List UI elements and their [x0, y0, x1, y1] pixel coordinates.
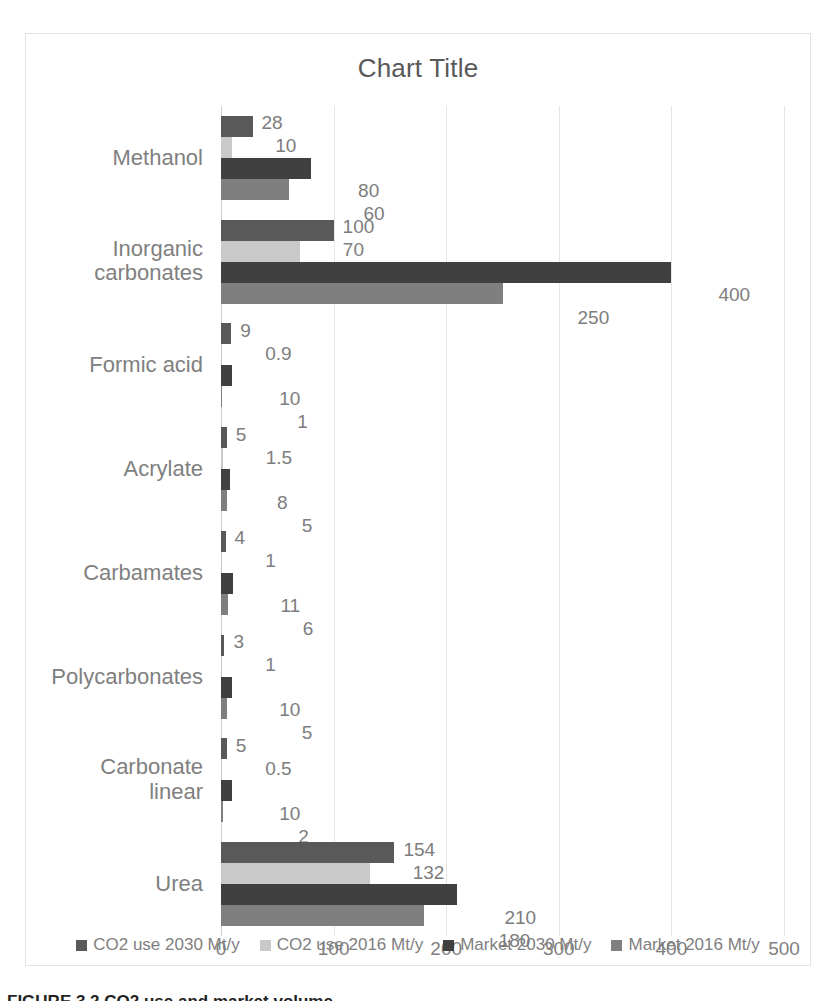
bar-value-label: 5 [227, 424, 247, 446]
bar-value-label: 9 [231, 320, 251, 342]
legend-label: CO2 use 2030 Mt/y [93, 935, 239, 955]
category-label: Carbonate linear [0, 756, 203, 805]
bar-row: 100 [221, 220, 784, 241]
bar[interactable] [221, 490, 227, 511]
bar[interactable] [221, 116, 253, 137]
figure-caption: FIGURE 3.2 CO2 use and market volume. [7, 992, 338, 1001]
bar[interactable] [221, 323, 231, 344]
category-label: Polycarbonates [0, 664, 203, 689]
bar-group: Polycarbonates31105 [221, 625, 784, 729]
bar-row: 1 [221, 386, 784, 407]
category-label: Urea [0, 872, 203, 897]
bar-row: 2 [221, 801, 784, 822]
bar[interactable] [221, 842, 394, 863]
bar[interactable] [221, 573, 233, 594]
bar-row: 210 [221, 884, 784, 905]
bar[interactable] [221, 656, 222, 677]
bar-row: 5 [221, 490, 784, 511]
bar[interactable] [221, 884, 457, 905]
chart-container: Chart Title 0100200300400500 Methanol281… [25, 33, 811, 966]
bar-row: 6 [221, 594, 784, 615]
bar-value-label: 1 [256, 654, 276, 676]
legend-label: CO2 use 2016 Mt/y [277, 935, 423, 955]
category-label: Formic acid [0, 353, 203, 378]
bar[interactable] [221, 905, 424, 926]
bar[interactable] [221, 863, 370, 884]
plot-area: 0100200300400500 Methanol28108060Inorgan… [221, 106, 784, 936]
bar-row: 250 [221, 283, 784, 304]
bar-row: 70 [221, 241, 784, 262]
bar[interactable] [221, 698, 227, 719]
bar-row: 11 [221, 573, 784, 594]
bar-row: 8 [221, 469, 784, 490]
bar-group: Carbonate linear50.5102 [221, 729, 784, 833]
bar[interactable] [221, 780, 232, 801]
bar[interactable] [221, 386, 222, 407]
bar-value-label: 28 [253, 112, 283, 134]
bar-row: 1 [221, 552, 784, 573]
bar[interactable] [221, 220, 334, 241]
legend-swatch-icon [611, 940, 622, 951]
bar[interactable] [221, 594, 228, 615]
bar[interactable] [221, 179, 289, 200]
chart-legend: CO2 use 2030 Mt/yCO2 use 2016 Mt/yMarket… [26, 935, 810, 955]
legend-item[interactable]: CO2 use 2030 Mt/y [76, 935, 239, 955]
bar-row: 5 [221, 738, 784, 759]
bar-row: 9 [221, 323, 784, 344]
legend-label: Market 2030 Mt/y [460, 935, 591, 955]
bar-value-label: 3 [224, 631, 244, 653]
bar-value-label: 132 [404, 862, 445, 884]
bar[interactable] [221, 344, 222, 365]
bar[interactable] [221, 158, 311, 179]
gridline-500 [784, 106, 785, 936]
bar-row: 10 [221, 677, 784, 698]
bar-row: 28 [221, 116, 784, 137]
bar-group: Acrylate51.585 [221, 417, 784, 521]
bar-value-label: 5 [227, 735, 247, 757]
bar[interactable] [221, 137, 232, 158]
bar[interactable] [221, 677, 232, 698]
legend-item[interactable]: Market 2016 Mt/y [611, 935, 759, 955]
bar-value-label: 1.5 [257, 447, 292, 469]
bar[interactable] [221, 283, 503, 304]
bar-row: 10 [221, 137, 784, 158]
bar-value-label: 10 [266, 135, 296, 157]
bar-value-label: 100 [334, 216, 375, 238]
bar[interactable] [221, 552, 222, 573]
bar-value-label: 154 [394, 839, 435, 861]
bar[interactable] [221, 241, 300, 262]
bar-value-label: 0.9 [256, 343, 291, 365]
bar-value-label: 0.5 [256, 758, 291, 780]
bar-value-label: 1 [256, 550, 276, 572]
bar-row: 4 [221, 531, 784, 552]
legend-swatch-icon [76, 940, 87, 951]
category-label: Inorganic carbonates [0, 237, 203, 286]
bar-row: 180 [221, 905, 784, 926]
bar-row: 5 [221, 427, 784, 448]
bar[interactable] [221, 365, 232, 386]
legend-item[interactable]: Market 2030 Mt/y [443, 935, 591, 955]
bar[interactable] [221, 448, 223, 469]
bar-row: 5 [221, 698, 784, 719]
bar-row: 80 [221, 158, 784, 179]
bar-row: 10 [221, 365, 784, 386]
bar-row: 60 [221, 179, 784, 200]
bar-group: Methanol28108060 [221, 106, 784, 210]
bar-group: Inorganic carbonates10070400250 [221, 210, 784, 314]
bar-row: 1 [221, 656, 784, 677]
chart-title: Chart Title [26, 53, 810, 84]
bar-row: 10 [221, 780, 784, 801]
legend-swatch-icon [443, 940, 454, 951]
bar-row: 3 [221, 635, 784, 656]
bar-row: 154 [221, 842, 784, 863]
legend-item[interactable]: CO2 use 2016 Mt/y [260, 935, 423, 955]
legend-label: Market 2016 Mt/y [628, 935, 759, 955]
bar-group: Formic acid90.9101 [221, 314, 784, 418]
bar-row: 400 [221, 262, 784, 283]
bar[interactable] [221, 801, 223, 822]
bar-row: 0.5 [221, 759, 784, 780]
bar[interactable] [221, 759, 222, 780]
bar[interactable] [221, 469, 230, 490]
bar[interactable] [221, 262, 671, 283]
category-label: Methanol [0, 146, 203, 171]
